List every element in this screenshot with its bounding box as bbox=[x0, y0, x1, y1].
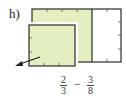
fraction-left-denominator: 3 bbox=[60, 86, 67, 96]
fraction-right-denominator: 8 bbox=[87, 86, 94, 96]
fraction-left: 2 3 bbox=[60, 75, 67, 96]
removed-piece bbox=[29, 25, 75, 66]
fraction-right: 3 8 bbox=[87, 75, 94, 96]
minus-operator: − bbox=[74, 77, 81, 92]
